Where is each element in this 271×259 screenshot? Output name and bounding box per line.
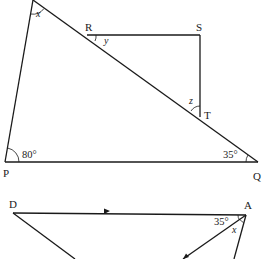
side-top-to-Q bbox=[33, 0, 258, 162]
figure-2: D A 35° x bbox=[9, 198, 252, 259]
side-top-to-P bbox=[5, 0, 33, 162]
vertex-label-S: S bbox=[196, 21, 202, 33]
angle-label-35: 35° bbox=[223, 149, 238, 160]
vertex-label-D: D bbox=[9, 198, 17, 210]
angle-label-x: x bbox=[35, 8, 41, 19]
vertex-label-A: A bbox=[244, 199, 252, 211]
line-D-to-A bbox=[13, 213, 246, 215]
geometry-diagram: x R y S z T 80° 35° P Q D A 35° x bbox=[0, 0, 271, 259]
angle-label-80: 80° bbox=[22, 149, 37, 160]
line-from-D bbox=[13, 213, 75, 259]
vertex-label-Q: Q bbox=[253, 170, 261, 182]
vertex-label-T: T bbox=[204, 109, 211, 121]
vertex-label-P: P bbox=[3, 167, 9, 179]
angle-label-x-A: x bbox=[231, 224, 237, 235]
angle-arc-x-A bbox=[240, 220, 244, 223]
diagram-svg: x R y S z T 80° 35° P Q D A 35° x bbox=[0, 0, 271, 259]
angle-arc-35-A bbox=[238, 215, 240, 220]
angle-arc-80 bbox=[8, 148, 20, 162]
angle-arc-35 bbox=[246, 155, 248, 162]
vertex-label-R: R bbox=[85, 21, 93, 33]
figure-1: x R y S z T 80° 35° P Q bbox=[3, 0, 261, 182]
arrowhead-icon bbox=[183, 254, 189, 259]
angle-label-35-A: 35° bbox=[214, 216, 229, 227]
angle-arc-y bbox=[95, 35, 96, 41]
angle-label-z: z bbox=[188, 95, 193, 106]
angle-arc-z bbox=[191, 106, 200, 111]
angle-label-y: y bbox=[103, 35, 109, 46]
